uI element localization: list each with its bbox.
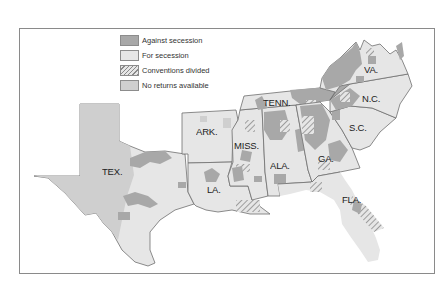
state-label-virginia: VA. <box>364 64 378 76</box>
legend-item-no-returns: No returns available <box>120 78 250 92</box>
for-secession-swatch-icon <box>120 50 139 61</box>
state-label-louisiana: LA. <box>207 184 221 196</box>
state-label-tennessee: TENN. <box>263 97 291 109</box>
state-label-north-carolina: N.C. <box>362 93 380 105</box>
state-label-alabama: ALA. <box>270 160 290 172</box>
legend-label: Against secession <box>142 36 202 45</box>
state-label-texas: TEX. <box>102 166 122 178</box>
no-returns-swatch-icon <box>120 80 139 91</box>
legend-item-against: Against secession <box>120 33 250 47</box>
state-label-arkansas: ARK. <box>196 126 217 138</box>
state-texas <box>34 104 194 266</box>
state-florida <box>278 172 384 262</box>
state-label-florida: FLA. <box>342 194 361 206</box>
legend-item-divided: Conventions divided <box>120 63 250 77</box>
legend-label: For secession <box>142 51 189 60</box>
against-secession-swatch-icon <box>120 35 139 46</box>
legend-item-for: For secession <box>120 48 250 62</box>
state-label-south-carolina: S.C. <box>349 122 367 134</box>
state-label-georgia: GA. <box>318 153 334 165</box>
legend-label: No returns available <box>142 81 209 90</box>
state-label-mississippi: MISS. <box>234 140 259 152</box>
map-legend: Against secession For secession Conventi… <box>120 33 250 93</box>
conventions-divided-swatch-icon <box>120 65 139 76</box>
legend-label: Conventions divided <box>142 66 210 75</box>
